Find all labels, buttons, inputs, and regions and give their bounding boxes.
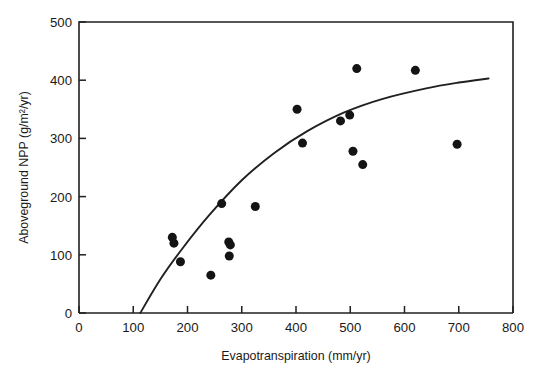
x-tick-label-300: 300 <box>231 320 253 335</box>
data-point <box>206 271 215 280</box>
y-tick-label-300: 300 <box>50 131 72 146</box>
x-axis-title: Evapotranspiration (mm/yr) <box>221 349 370 363</box>
data-point <box>352 64 361 73</box>
y-tick-label-400: 400 <box>50 73 72 88</box>
data-point <box>411 66 420 75</box>
data-point <box>225 251 234 260</box>
data-point <box>226 240 235 249</box>
y-tick-label-100: 100 <box>50 248 72 263</box>
x-tick-label-200: 200 <box>176 320 198 335</box>
x-tick-label-400: 400 <box>285 320 307 335</box>
x-tick-label-800: 800 <box>502 320 524 335</box>
data-point <box>251 202 260 211</box>
x-tick-label-100: 100 <box>122 320 144 335</box>
x-tick-label-0: 0 <box>75 320 82 335</box>
data-point <box>453 140 462 149</box>
x-tick-label-500: 500 <box>339 320 361 335</box>
chart-figure: 0 100 200 300 400 500 0 100 200 300 400 <box>0 0 546 373</box>
data-point <box>176 257 185 266</box>
data-point <box>298 139 307 148</box>
data-point <box>336 116 345 125</box>
x-tick-label-600: 600 <box>393 320 415 335</box>
y-tick-label-200: 200 <box>50 190 72 205</box>
data-point <box>169 239 178 248</box>
x-tick-label-700: 700 <box>448 320 470 335</box>
data-point <box>358 160 367 169</box>
y-tick-label-500: 500 <box>50 15 72 30</box>
scatter-plot-svg: 0 100 200 300 400 500 0 100 200 300 400 <box>0 0 546 373</box>
y-tick-label-0: 0 <box>65 306 72 321</box>
y-axis-title: Aboveground NPP (g/m²/yr) <box>17 91 31 244</box>
data-point <box>293 105 302 114</box>
x-axis-tick-labels: 0 100 200 300 400 500 600 700 800 <box>75 320 524 335</box>
data-point <box>348 147 357 156</box>
data-point <box>217 199 226 208</box>
data-point <box>345 111 354 120</box>
chart-background <box>0 0 546 373</box>
